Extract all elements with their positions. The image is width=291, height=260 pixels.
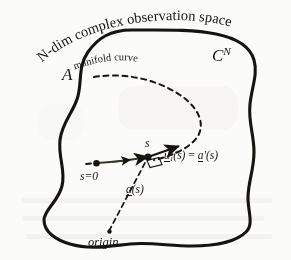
origin-point bbox=[107, 229, 111, 233]
page-bleed-through bbox=[22, 86, 272, 239]
arc-start-point bbox=[93, 160, 100, 167]
arc-start-label: s=0 bbox=[80, 171, 98, 183]
position-vector-label: a(s) bbox=[126, 184, 144, 196]
complex-space-symbol: CN bbox=[212, 46, 231, 64]
complex-space-symbol-letter: C bbox=[212, 46, 223, 65]
tangent-vector-u-arg: (s) bbox=[173, 149, 185, 161]
diagram-canvas: N-dim complex observation space manifold… bbox=[0, 0, 291, 260]
arc-parameter-label: s bbox=[145, 138, 149, 150]
manifold-curve-label-text: manifold curve bbox=[72, 51, 140, 71]
position-vector-arg: (s) bbox=[132, 183, 144, 195]
tangent-vector-label: u1(s) = a'(s) bbox=[164, 150, 218, 163]
manifold-symbol: A bbox=[62, 66, 72, 83]
arc-traversed-segment bbox=[97, 157, 147, 163]
arc-direction-arrow-mid bbox=[112, 160, 130, 162]
observation-space-title-text: N-dim complex observation space bbox=[34, 7, 234, 65]
manifold-observation-space-diagram: N-dim complex observation space manifold… bbox=[0, 0, 291, 260]
tangent-vector-a-prime: '(s) bbox=[203, 149, 218, 161]
origin-label: origin bbox=[88, 236, 119, 249]
manifold-curve-label: manifold curve bbox=[72, 51, 140, 71]
complex-space-symbol-exponent: N bbox=[223, 45, 230, 57]
arc-lead-dash bbox=[86, 164, 91, 165]
observation-space-title: N-dim complex observation space bbox=[34, 7, 234, 65]
